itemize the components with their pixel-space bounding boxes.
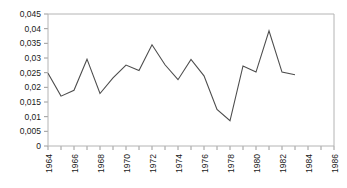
y-tick-label: 0,02 xyxy=(24,82,41,92)
y-tick-label: 0,035 xyxy=(20,38,42,48)
y-tick-label: 0,015 xyxy=(20,97,42,107)
x-tick-label: 1970 xyxy=(122,154,132,173)
x-tick-label: 1978 xyxy=(226,154,236,173)
y-tick-label: 0,03 xyxy=(24,53,41,63)
x-tick-label: 1986 xyxy=(330,154,340,173)
x-tick-label: 1984 xyxy=(304,154,314,173)
chart-canvas: 00,0050,010,0150,020,0250,030,0350,040,0… xyxy=(0,0,347,188)
y-tick-label: 0,045 xyxy=(20,9,42,19)
x-tick-label: 1966 xyxy=(70,154,80,173)
y-tick-label: 0,005 xyxy=(20,126,42,136)
y-tick-label: 0,01 xyxy=(24,112,41,122)
x-tick-label: 1964 xyxy=(44,154,54,173)
x-axis-tick-marks xyxy=(48,146,334,150)
y-axis-tick-labels: 00,0050,010,0150,020,0250,030,0350,040,0… xyxy=(20,9,42,151)
x-tick-label: 1982 xyxy=(278,154,288,173)
x-tick-label: 1976 xyxy=(200,154,210,173)
line-chart: 00,0050,010,0150,020,0250,030,0350,040,0… xyxy=(0,0,347,188)
x-tick-label: 1974 xyxy=(174,154,184,173)
x-axis-tick-labels: 1964196619681970197219741976197819801982… xyxy=(44,154,340,173)
y-tick-label: 0 xyxy=(36,141,41,151)
y-axis-tick-marks xyxy=(44,14,48,146)
x-tick-label: 1980 xyxy=(252,154,262,173)
plot-frame xyxy=(48,14,334,146)
x-tick-label: 1968 xyxy=(96,154,106,173)
x-tick-label: 1972 xyxy=(148,154,158,173)
y-tick-label: 0,04 xyxy=(24,24,41,34)
y-tick-label: 0,025 xyxy=(20,68,42,78)
data-series-line xyxy=(48,31,295,121)
